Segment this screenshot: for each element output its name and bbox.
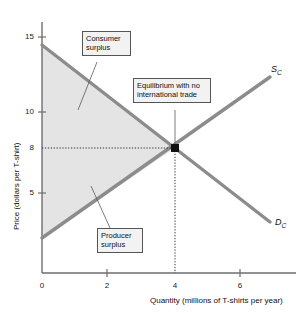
y-axis-title: Price (dollars per T-shirt): [12, 143, 21, 230]
equilibrium-callout-line1: Equilibrium with no: [137, 81, 207, 90]
producer-surplus-callout-line2: surplus: [101, 240, 139, 249]
consumer-surplus-callout-line1: Consumer: [86, 34, 127, 43]
supply-demand-chart: [0, 0, 306, 313]
x-tick-label-0: 0: [33, 281, 51, 290]
x-axis-title: Quantity (millions of T-shirts per year): [150, 296, 283, 305]
equilibrium-callout-line2: international trade: [137, 90, 207, 99]
producer-surplus-callout: Producer surplus: [97, 228, 143, 253]
x-tick-label-2: 2: [98, 281, 116, 290]
y-tick-label-15: 15: [16, 32, 34, 41]
consumer-surplus-callout: Consumer surplus: [82, 31, 131, 56]
supply-curve-label: SC: [271, 64, 282, 76]
equilibrium-callout: Equilibrium with no international trade: [133, 78, 211, 103]
demand-curve-label: DC: [275, 217, 286, 229]
x-tick-label-4: 4: [166, 281, 184, 290]
x-tick-label-6: 6: [231, 281, 249, 290]
y-tick-label-10: 10: [16, 107, 34, 116]
equilibrium-point-marker: [171, 144, 179, 152]
demand-curve-label-sub: C: [282, 222, 287, 229]
supply-curve-label-sub: C: [277, 69, 282, 76]
consumer-surplus-callout-line2: surplus: [86, 43, 127, 52]
producer-surplus-callout-line1: Producer: [101, 231, 139, 240]
